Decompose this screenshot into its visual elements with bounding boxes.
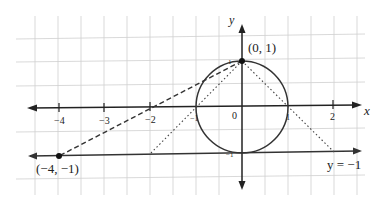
tick-label-0: 0 [232,110,237,121]
line-label-y-neg1: y = −1 [327,157,361,172]
x-axis-label: x [363,103,370,118]
point-label-neg4-neg1: (−4, −1) [36,161,79,176]
point-0-1 [239,58,245,64]
y-axis [239,24,246,190]
tick-label-neg2: −2 [145,114,156,125]
y-tick-label-1: 1 [228,58,232,66]
y-tick-label-neg1: −1 [226,151,234,159]
tick-label-1: 1 [286,113,290,122]
x-axis [27,100,362,112]
point-label-0-1: (0, 1) [248,40,276,55]
point-neg4-neg1 [56,153,62,159]
line-y-neg1 [28,148,362,160]
coordinate-plane: y x −4 −3 −2 −1 0 1 2 1 −1 (0, 1) (−4, −… [0,0,384,208]
tick-label-2: 2 [330,111,335,122]
tick-label-neg4: −4 [54,115,65,126]
tick-label-neg3: −3 [99,115,110,126]
y-axis-label: y [228,13,235,27]
tick-label-neg1: −1 [190,114,199,123]
